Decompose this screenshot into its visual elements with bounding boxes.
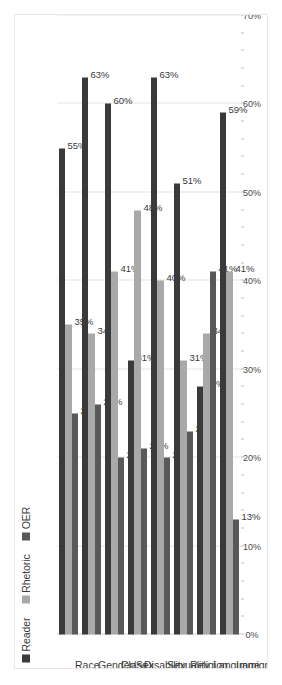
axis-minor-tick	[241, 492, 244, 493]
axis-minor-tick	[241, 421, 244, 422]
bar[interactable]	[210, 271, 216, 634]
axis-minor-tick	[241, 67, 244, 68]
bar[interactable]	[141, 448, 147, 634]
bar-value-label: 13%	[241, 511, 260, 522]
axis-minor-tick	[241, 173, 244, 174]
bar[interactable]	[233, 519, 239, 634]
legend-label: Reader	[21, 617, 32, 651]
axis-tick-label: 60%	[237, 98, 267, 108]
axis-minor-tick	[241, 156, 244, 157]
axis-tick-label: 0%	[237, 629, 267, 639]
axis-minor-tick	[241, 120, 244, 121]
axis-minor-tick	[241, 527, 244, 528]
bar[interactable]	[95, 404, 101, 634]
axis-minor-tick	[241, 209, 244, 210]
legend-entry[interactable]: Reader	[21, 617, 32, 662]
chart-frame: ReaderRhetoricOER 55%35%25%63%34%26%60%4…	[14, 14, 268, 669]
axis-minor-tick	[241, 32, 244, 33]
axis-minor-tick	[241, 138, 244, 139]
axis-tick-label: 70%	[237, 14, 267, 20]
legend-swatch-icon	[22, 532, 30, 540]
chart-plot-area: 55%35%25%63%34%26%60%41%20%31%48%21%63%4…	[57, 15, 241, 634]
legend-label: OER	[21, 506, 32, 528]
bar-value-label: 63%	[160, 68, 179, 79]
axis-tick-label: 30%	[237, 364, 267, 374]
chart-rotation-stage: ReaderRhetoricOER 55%35%25%63%34%26%60%4…	[15, 15, 267, 668]
axis-tick-label: 20%	[237, 452, 267, 462]
axis-minor-tick	[241, 85, 244, 86]
axis-minor-tick	[241, 332, 244, 333]
axis-minor-tick	[241, 385, 244, 386]
axis-tick-label: 50%	[237, 187, 267, 197]
axis-minor-tick	[241, 403, 244, 404]
legend-entry[interactable]: OER	[21, 506, 32, 539]
axis-minor-tick	[241, 297, 244, 298]
bar[interactable]	[118, 457, 124, 634]
bar-value-label: 60%	[114, 95, 133, 106]
axis-minor-tick	[241, 49, 244, 50]
axis-minor-tick	[241, 580, 244, 581]
axis-minor-tick	[241, 474, 244, 475]
bar[interactable]	[72, 413, 78, 634]
bar[interactable]	[187, 431, 193, 634]
legend-entry[interactable]: Rhetoric	[21, 554, 32, 603]
axis-minor-tick	[241, 244, 244, 245]
chart-plot-wrapper: ReaderRhetoricOER 55%35%25%63%34%26%60%4…	[15, 15, 267, 668]
bar-value-label: 63%	[91, 68, 110, 79]
axis-tick-label: 40%	[237, 275, 267, 285]
axis-minor-tick	[241, 226, 244, 227]
legend-swatch-icon	[22, 595, 30, 603]
gridline	[57, 14, 241, 15]
bar[interactable]	[164, 457, 170, 634]
legend-swatch-icon	[22, 654, 30, 662]
axis-minor-tick	[241, 615, 244, 616]
axis-minor-tick	[241, 350, 244, 351]
legend-label: Rhetoric	[21, 554, 32, 592]
axis-tick-label: 10%	[237, 541, 267, 551]
axis-minor-tick	[241, 438, 244, 439]
axis-minor-tick	[241, 562, 244, 563]
bar-value-label: 51%	[183, 175, 202, 186]
chart-legend: ReaderRhetoricOER	[21, 506, 32, 662]
bar-value-label: 41%	[235, 263, 254, 274]
axis-minor-tick	[241, 315, 244, 316]
axis-minor-tick	[241, 598, 244, 599]
